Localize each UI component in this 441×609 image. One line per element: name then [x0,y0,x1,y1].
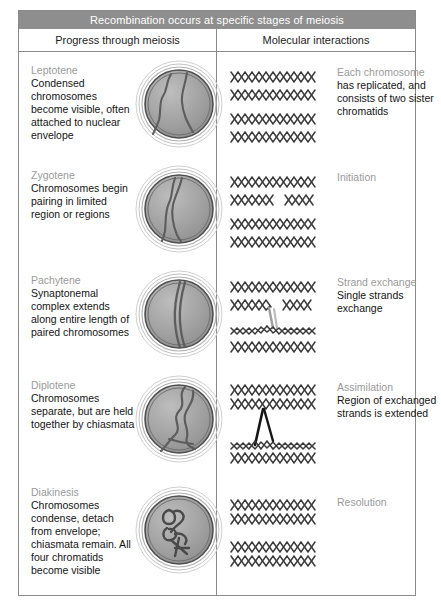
stage-description: Chromosomes begin pairing in limited reg… [31,182,135,221]
meiosis-recombination-figure: Recombination occurs at specific stages … [18,10,416,596]
stage-name: Diplotene [31,379,135,392]
molecular-text-block: Assimilation Region of exchanged strands… [337,381,441,420]
molecular-text-block: Resolution [337,496,441,509]
table-row: Diakinesis Chromosomes condense, detach … [19,472,415,596]
molecular-text-block: Strand exchange Single strands exchange [337,276,441,315]
molecular-cell: Each chromosome has replicated, and cons… [217,52,415,157]
stage-text-block: Leptotene Condensed chromosomes become v… [31,64,135,142]
progress-cell: Pachytene Synaptonemal complex extends a… [19,262,216,367]
stage-text-block: Zygotene Chromosomes begin pairing in li… [31,169,135,221]
stage-name: Diakinesis [31,486,135,499]
molecular-description: has replicated, and consists of two sist… [337,79,441,118]
molecular-cell: Resolution [217,472,415,596]
progress-cell: Leptotene Condensed chromosomes become v… [19,52,216,157]
molecular-heading: Initiation [337,171,441,184]
progress-cell: Diplotene Chromosomes separate, but are … [19,367,216,472]
nucleus-diplotene-icon [135,371,223,467]
molecular-description: Region of exchanged strands is extended [337,394,441,420]
column-header-row: Progress through meiosis Molecular inter… [19,29,415,52]
molecular-heading: Assimilation [337,381,441,394]
column-header-right: Molecular interactions [216,29,415,51]
stage-text-block: Diakinesis Chromosomes condense, detach … [31,486,135,577]
dna-four-duplexes-intact-icon [229,68,329,148]
stage-name: Zygotene [31,169,135,182]
stage-description: Synaptonemal complex extends along entir… [31,287,135,339]
nucleus-diakinesis-icon [135,482,223,578]
stage-rows: Leptotene Condensed chromosomes become v… [19,52,415,596]
nucleus-zygotene-icon [135,161,223,257]
table-row: Zygotene Chromosomes begin pairing in li… [19,157,415,262]
progress-cell: Diakinesis Chromosomes condense, detach … [19,472,216,596]
dna-strand-nick-icon [229,173,329,253]
figure-title: Recombination occurs at specific stages … [90,14,344,26]
molecular-cell: Initiation [217,157,415,262]
column-header-left: Progress through meiosis [19,29,216,51]
dna-single-strand-crossover-icon [229,278,329,358]
stage-name: Pachytene [31,274,135,287]
nucleus-leptotene-icon [135,56,223,152]
stage-text-block: Pachytene Synaptonemal complex extends a… [31,274,135,339]
stage-description: Chromosomes separate, but are held toget… [31,392,135,431]
progress-cell: Zygotene Chromosomes begin pairing in li… [19,157,216,262]
molecular-cell: Strand exchange Single strands exchange [217,262,415,367]
stage-text-block: Diplotene Chromosomes separate, but are … [31,379,135,431]
table-row: Pachytene Synaptonemal complex extends a… [19,262,415,367]
dna-extended-heteroduplex-icon [229,383,329,463]
molecular-description: Single strands exchange [337,289,441,315]
nucleus-pachytene-icon [135,266,223,362]
table-row: Diplotene Chromosomes separate, but are … [19,367,415,472]
table-row: Leptotene Condensed chromosomes become v… [19,52,415,157]
molecular-heading: Each chromosome [337,66,441,79]
molecular-text-block: Each chromosome has replicated, and cons… [337,66,441,118]
molecular-heading: Strand exchange [337,276,441,289]
molecular-heading: Resolution [337,496,441,509]
molecular-cell: Assimilation Region of exchanged strands… [217,367,415,472]
stage-description: Condensed chromosomes become visible, of… [31,77,135,142]
figure-title-bar: Recombination occurs at specific stages … [19,11,415,29]
stage-name: Leptotene [31,64,135,77]
molecular-text-block: Initiation [337,171,441,184]
dna-resolved-duplexes-icon [229,498,329,578]
stage-description: Chromosomes condense, detach from envelo… [31,499,135,577]
